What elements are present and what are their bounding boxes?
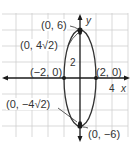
y-tick-label: 2: [70, 58, 76, 68]
label-vertex-bottom: (0, −6): [88, 128, 120, 140]
point-vertex-bottom: [77, 123, 82, 128]
label-vertex-top: (0, 6): [41, 19, 67, 31]
label-focus-top: (0, 4√2): [20, 39, 58, 51]
x-axis-label: x: [121, 84, 126, 94]
x-axis-left-arrow-icon: [2, 76, 8, 81]
point-covertex-left: [62, 76, 66, 80]
y-axis-label: y: [86, 16, 91, 26]
x-axis-right-arrow-icon: [124, 76, 130, 81]
x-tick-label: 4: [109, 84, 115, 94]
point-focus-top: [78, 31, 82, 35]
y-axis-down-arrow-icon: [78, 136, 83, 142]
label-covertex-left: (−2, 0): [30, 66, 62, 78]
y-axis-up-arrow-icon: [78, 14, 83, 20]
label-focus-bottom: (0, −4√2): [6, 98, 50, 110]
label-covertex-right: (2, 0): [96, 66, 122, 78]
